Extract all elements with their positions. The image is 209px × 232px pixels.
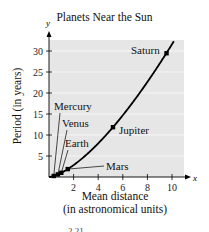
y-axis-variable: y <box>45 18 50 28</box>
y-tick-label: 20 <box>33 88 43 99</box>
planet-label-venus: Venus <box>62 117 89 129</box>
y-tick-label: 30 <box>33 46 43 57</box>
x-axis-arrow <box>185 175 191 180</box>
planet-label-mercury: Mercury <box>54 100 92 112</box>
y-tick-label: 5 <box>38 151 43 162</box>
figure-caption: 2.21 <box>68 226 84 232</box>
x-axis-label: Mean distance (in astronomical units) <box>40 190 190 216</box>
planet-label-saturn: Saturn <box>131 44 160 56</box>
y-axis-arrow <box>47 31 52 37</box>
planet-point-mercury <box>52 174 56 178</box>
planet-point-jupiter <box>111 125 115 129</box>
planet-point-mars <box>66 167 70 171</box>
planet-label-mars: Mars <box>106 160 129 172</box>
y-tick-label: 25 <box>33 67 43 78</box>
planet-point-saturn <box>164 51 168 55</box>
x-axis-variable: x <box>192 173 197 183</box>
x-axis-label-line-2: (in astronomical units) <box>40 203 190 216</box>
y-tick-label: 15 <box>33 109 43 120</box>
x-axis-label-line-1: Mean distance <box>40 190 190 203</box>
planet-label-earth: Earth <box>65 137 89 149</box>
y-tick-label: 10 <box>33 130 43 141</box>
y-axis-label: Period (in years) <box>11 61 23 151</box>
planet-label-jupiter: Jupiter <box>119 124 149 136</box>
planet-point-earth <box>59 171 63 175</box>
